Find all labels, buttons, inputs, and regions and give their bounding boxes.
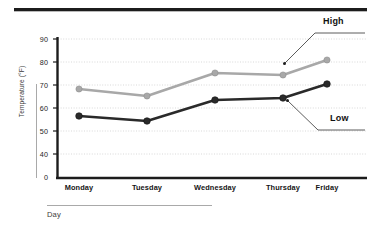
x-tick-label-friday: Friday	[303, 183, 351, 192]
gridlines	[58, 39, 367, 154]
y-tick-label-90: 90	[26, 35, 48, 44]
y-tick-label-60: 60	[26, 104, 48, 113]
y-axis-title: Temperature (°F)	[18, 54, 25, 130]
data-point-low-monday	[76, 113, 83, 120]
leader-low-diagonal	[288, 101, 318, 130]
line-chart-plot	[0, 0, 367, 233]
series-annotation-high: High	[323, 16, 344, 26]
series-line-high	[79, 60, 327, 96]
data-point-low-friday	[324, 81, 331, 88]
x-tick-label-tuesday: Tuesday	[120, 183, 174, 192]
x-axis-title: Day	[47, 210, 61, 219]
data-point-low-thursday	[280, 95, 287, 102]
y-tick-label-0: 0	[26, 173, 48, 182]
y-tick-label-70: 70	[26, 81, 48, 90]
leader-low-arrowhead	[286, 99, 289, 102]
data-point-high-monday	[76, 86, 82, 92]
x-axis-title-rule	[47, 205, 212, 206]
data-point-high-thursday	[280, 72, 286, 78]
annotation-leader-low	[288, 101, 365, 130]
x-tick-label-monday: Monday	[52, 183, 106, 192]
x-tick-label-wednesday: Wednesday	[182, 183, 248, 192]
y-tick-label-40: 40	[26, 150, 48, 159]
chart-page: Temperature (°F) 90 80 70 60 50 40 0 Mon…	[0, 0, 367, 233]
data-point-low-wednesday	[212, 97, 219, 104]
leader-high-arrowhead	[283, 62, 286, 65]
y-tick-label-50: 50	[26, 127, 48, 136]
data-point-high-friday	[324, 57, 330, 63]
data-point-low-tuesday	[144, 118, 151, 125]
data-point-high-wednesday	[212, 70, 218, 76]
leader-high-diagonal	[285, 33, 315, 63]
data-point-high-tuesday	[144, 93, 150, 99]
series-annotation-low: Low	[330, 113, 349, 123]
y-tick-label-80: 80	[26, 58, 48, 67]
